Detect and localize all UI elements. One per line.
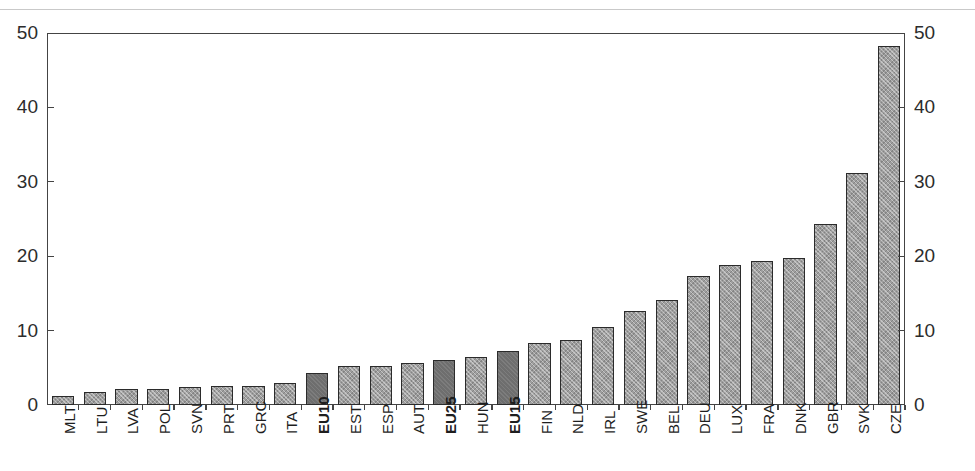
x-axis-label-esp: ESP bbox=[381, 420, 395, 434]
x-axis-label-gbr: GBR bbox=[826, 420, 840, 434]
x-tick-svn bbox=[205, 405, 206, 410]
x-axis-label-nld: NLD bbox=[571, 420, 585, 434]
x-axis-label-eu10: EU10 bbox=[317, 420, 331, 434]
y-tick-left-20 bbox=[47, 256, 54, 257]
y-axis-label-left-40: 40 bbox=[17, 97, 38, 116]
x-tick-ita bbox=[301, 405, 302, 410]
bar-svk bbox=[846, 173, 868, 405]
bar-dnk bbox=[783, 258, 805, 405]
x-axis-label-ita: ITA bbox=[285, 420, 299, 434]
x-axis-label-irl: IRL bbox=[603, 420, 617, 434]
x-tick-mlt bbox=[78, 405, 79, 410]
x-tick-swe bbox=[650, 405, 651, 410]
bar-cze bbox=[878, 46, 900, 405]
x-tick-cze bbox=[904, 405, 905, 410]
x-axis-label-deu: DEU bbox=[698, 420, 712, 434]
bar-bel bbox=[656, 300, 678, 405]
x-tick-deu bbox=[714, 405, 715, 410]
bar-ltu bbox=[84, 392, 106, 405]
x-axis-label-lux: LUX bbox=[730, 420, 744, 434]
x-axis-label-svk: SVK bbox=[857, 420, 871, 434]
x-axis-label-svn: SVN bbox=[190, 420, 204, 434]
bar-swe bbox=[624, 311, 646, 405]
x-tick-nld bbox=[587, 405, 588, 410]
bar-pol bbox=[147, 389, 169, 405]
x-axis-label-dnk: DNK bbox=[794, 420, 808, 434]
x-axis-label-aut: AUT bbox=[412, 420, 426, 434]
x-tick-prt bbox=[237, 405, 238, 410]
x-axis-label-eu15: EU15 bbox=[508, 420, 522, 434]
bar-prt bbox=[211, 386, 233, 405]
x-tick-dnk bbox=[809, 405, 810, 410]
y-axis-label-left-20: 20 bbox=[17, 246, 38, 265]
x-tick-ltu bbox=[110, 405, 111, 410]
y-tick-left-40 bbox=[47, 107, 54, 108]
x-tick-esp bbox=[396, 405, 397, 410]
y-axis-label-right-20: 20 bbox=[914, 246, 935, 265]
y-tick-left-30 bbox=[47, 181, 54, 182]
x-axis-label-pol: POL bbox=[158, 420, 172, 434]
x-tick-aut bbox=[428, 405, 429, 410]
x-tick-bel bbox=[682, 405, 683, 410]
x-tick-fra bbox=[777, 405, 778, 410]
bars-layer bbox=[47, 33, 905, 405]
x-tick-irl bbox=[618, 405, 619, 410]
y-axis-label-right-40: 40 bbox=[914, 97, 935, 116]
x-axis-label-prt: PRT bbox=[222, 420, 236, 434]
bar-hun bbox=[465, 357, 487, 405]
bar-gbr bbox=[814, 224, 836, 405]
y-tick-left-10 bbox=[47, 330, 54, 331]
x-tick-svk bbox=[873, 405, 874, 410]
bar-fra bbox=[751, 261, 773, 405]
y-tick-right-40 bbox=[898, 107, 905, 108]
y-tick-right-20 bbox=[898, 256, 905, 257]
bar-irl bbox=[592, 327, 614, 405]
x-tick-lux bbox=[745, 405, 746, 410]
x-axis-label-lva: LVA bbox=[126, 420, 140, 434]
bar-est bbox=[338, 366, 360, 405]
bar-mlt bbox=[52, 396, 74, 405]
x-axis-label-eu25: EU25 bbox=[444, 420, 458, 434]
x-axis-label-swe: SWE bbox=[635, 420, 649, 434]
x-axis-label-grc: GRC bbox=[254, 420, 268, 434]
chart-title-strip bbox=[0, 0, 975, 9]
header-divider bbox=[0, 9, 975, 10]
bar-deu bbox=[687, 276, 709, 405]
bar-esp bbox=[370, 366, 392, 405]
y-axis-label-right-30: 30 bbox=[914, 172, 935, 191]
bar-lva bbox=[115, 389, 137, 405]
y-axis-label-left-50: 50 bbox=[17, 23, 38, 42]
x-axis-label-fin: FIN bbox=[540, 420, 554, 434]
x-tick-eu10 bbox=[332, 405, 333, 410]
bar-aut bbox=[401, 363, 423, 405]
y-axis-label-left-0: 0 bbox=[27, 395, 38, 414]
bar-ita bbox=[274, 383, 296, 405]
x-tick-est bbox=[364, 405, 365, 410]
x-axis-label-ltu: LTU bbox=[95, 420, 109, 434]
x-tick-eu25 bbox=[459, 405, 460, 410]
x-axis-label-mlt: MLT bbox=[63, 420, 77, 434]
bar-lux bbox=[719, 265, 741, 405]
x-axis-label-cze: CZE bbox=[889, 420, 903, 434]
x-axis-label-hun: HUN bbox=[476, 420, 490, 434]
y-axis-label-left-30: 30 bbox=[17, 172, 38, 191]
x-tick-hun bbox=[491, 405, 492, 410]
x-axis-label-est: EST bbox=[349, 420, 363, 434]
y-axis-label-right-10: 10 bbox=[914, 321, 935, 340]
y-axis-label-right-0: 0 bbox=[914, 395, 925, 414]
x-axis-label-bel: BEL bbox=[667, 420, 681, 434]
chart-figure: 0010102020303040405050 MLTLTULVAPOLSVNPR… bbox=[0, 0, 975, 471]
bar-nld bbox=[560, 340, 582, 405]
x-tick-eu15 bbox=[523, 405, 524, 410]
bar-fin bbox=[528, 343, 550, 405]
y-axis-label-left-10: 10 bbox=[17, 321, 38, 340]
y-axis-label-right-50: 50 bbox=[914, 23, 935, 42]
x-axis-label-fra: FRA bbox=[762, 420, 776, 434]
x-tick-lva bbox=[142, 405, 143, 410]
x-tick-pol bbox=[173, 405, 174, 410]
y-tick-right-30 bbox=[898, 181, 905, 182]
y-tick-right-10 bbox=[898, 330, 905, 331]
